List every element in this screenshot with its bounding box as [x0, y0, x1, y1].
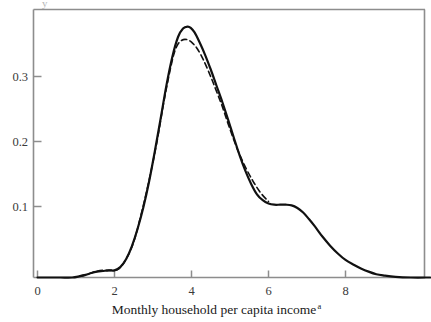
x-tick-label-1: 2: [111, 284, 117, 298]
caption-superscript: a: [317, 301, 321, 311]
y-axis-label: y: [42, 0, 48, 9]
x-tick-label-3: 6: [265, 284, 271, 298]
y-tick-label-2: 0.1: [12, 200, 28, 214]
x-tick-label-0: 0: [34, 284, 40, 298]
x-tick-label-2: 4: [188, 284, 195, 298]
x-tick-label-4: 8: [342, 284, 348, 298]
y-tick-label-0: 0.3: [12, 70, 28, 84]
x-axis-caption: Monthly household per capita income a: [112, 301, 322, 317]
dashed-curve: [80, 39, 269, 276]
data-curves: [38, 27, 431, 278]
plot-frame: [34, 10, 426, 278]
density-plot-figure: y 0.3 0.2 0.1 0 2 4 6 8 Monthly househol…: [0, 0, 431, 322]
y-axis-ticks: [34, 77, 42, 207]
solid-curve: [38, 27, 431, 278]
y-tick-label-1: 0.2: [12, 135, 28, 149]
caption-label: Monthly household per capita income: [112, 302, 317, 317]
